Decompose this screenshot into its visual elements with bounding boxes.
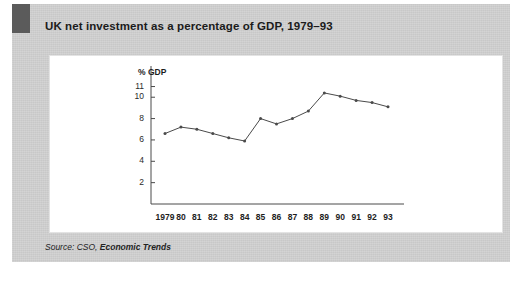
y-axis-tick-label: 10 <box>120 91 144 101</box>
accent-block <box>12 4 30 33</box>
y-axis-tick-label: 4 <box>120 155 144 165</box>
source-publication: Economic Trends <box>100 242 171 252</box>
x-axis-tick-label: 81 <box>189 212 205 222</box>
x-axis-tick-label: 85 <box>253 212 269 222</box>
y-axis-tick-label: 2 <box>120 177 144 187</box>
x-axis-tick-label: 82 <box>205 212 221 222</box>
y-axis-tick-label: 11 <box>120 81 144 91</box>
x-axis-tick-label: 84 <box>237 212 253 222</box>
figure-root: UK net investment as a percentage of GDP… <box>0 0 528 285</box>
figure-title: UK net investment as a percentage of GDP… <box>45 20 333 32</box>
source-note: Source: CSO, Economic Trends <box>45 242 171 252</box>
x-axis-tick-label: 88 <box>300 212 316 222</box>
x-axis-tick-label: 93 <box>380 212 396 222</box>
x-axis-tick-label: 92 <box>364 212 380 222</box>
x-axis-tick-label: 91 <box>348 212 364 222</box>
line-chart-plot: % GDP 1110864219798081828384858687888990… <box>50 56 502 232</box>
x-axis-tick-label: 90 <box>332 212 348 222</box>
chart-card: % GDP 1110864219798081828384858687888990… <box>50 56 502 232</box>
x-axis-tick-label: 83 <box>221 212 237 222</box>
x-axis-tick-label: 89 <box>316 212 332 222</box>
source-prefix: Source: CSO, <box>45 242 100 252</box>
figure-panel: UK net investment as a percentage of GDP… <box>12 4 510 262</box>
x-axis-tick-label: 86 <box>269 212 285 222</box>
y-axis-label: % GDP <box>138 67 166 77</box>
y-axis-tick-label: 6 <box>120 134 144 144</box>
x-axis-tick-label: 87 <box>284 212 300 222</box>
x-axis-tick-label: 80 <box>173 212 189 222</box>
chart-svg <box>50 56 502 232</box>
y-axis-tick-label: 8 <box>120 113 144 123</box>
